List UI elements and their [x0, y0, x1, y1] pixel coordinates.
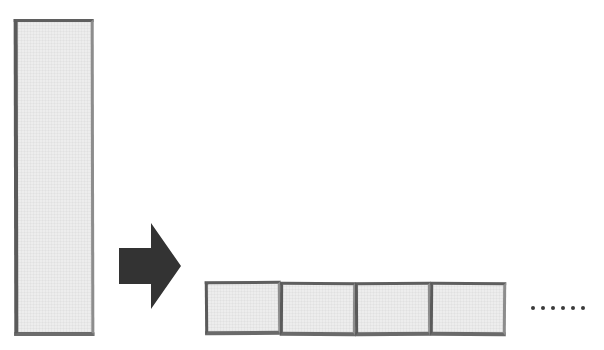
unit-square: [355, 282, 431, 336]
transform-arrow: [119, 221, 181, 311]
ellipsis-dot: [571, 306, 575, 310]
ellipsis-dot: [531, 306, 535, 310]
ellipsis-icon: [531, 306, 585, 310]
unit-square-row: [205, 281, 505, 337]
cropped-caption-text: [16, 0, 256, 3]
ellipsis-dot: [541, 306, 545, 310]
arrow-shape: [119, 223, 181, 309]
ellipsis-dot: [581, 306, 585, 310]
figure-canvas: [0, 0, 604, 350]
ellipsis-dot: [561, 306, 565, 310]
unit-square: [280, 282, 356, 336]
tall-source-block: [14, 19, 95, 336]
ellipsis-dot: [551, 306, 555, 310]
unit-square: [205, 281, 281, 336]
unit-square: [430, 282, 506, 337]
